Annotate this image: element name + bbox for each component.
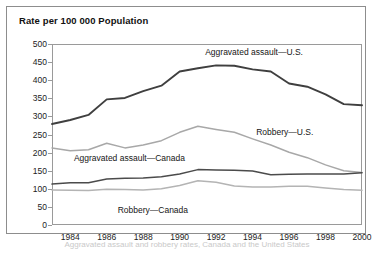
series-line xyxy=(52,181,362,191)
series-label: Robbery—U.S. xyxy=(256,127,313,137)
y-axis-tick-label: 0 xyxy=(42,220,47,230)
plot-area: 5004504003503002502001501005001984198619… xyxy=(52,44,362,225)
y-axis-tick-mark xyxy=(48,135,52,136)
y-axis-tick-label: 350 xyxy=(33,93,47,103)
y-axis-tick-label: 150 xyxy=(33,166,47,176)
y-axis-tick-label: 450 xyxy=(33,57,47,67)
y-axis-tick-label: 400 xyxy=(33,75,47,85)
y-axis-tick-mark xyxy=(48,44,52,45)
chart-title: Rate per 100 000 Population xyxy=(19,15,148,26)
y-axis-tick-label: 250 xyxy=(33,130,47,140)
series-label: Robbery—Canada xyxy=(118,205,188,215)
series-lines xyxy=(52,44,362,225)
series-line xyxy=(52,126,362,172)
y-axis-tick-mark xyxy=(48,98,52,99)
y-axis-tick-label: 100 xyxy=(33,184,47,194)
y-axis-tick-label: 500 xyxy=(33,39,47,49)
y-axis-tick-mark xyxy=(48,116,52,117)
y-axis-tick-mark xyxy=(48,171,52,172)
y-axis-tick-mark xyxy=(48,189,52,190)
y-axis-tick-mark xyxy=(48,62,52,63)
series-label: Aggravated assault—Canada xyxy=(74,153,185,163)
y-axis-tick-label: 50 xyxy=(38,202,47,212)
y-axis-tick-mark xyxy=(48,153,52,154)
series-line xyxy=(52,65,362,124)
figure-caption: Aggravated assault and robbery rates, Ca… xyxy=(0,240,374,252)
series-label: Aggravated assault—U.S. xyxy=(205,47,303,57)
y-axis-tick-mark xyxy=(48,225,52,226)
y-axis-tick-mark xyxy=(48,207,52,208)
chart-panel: Rate per 100 000 Population 500450400350… xyxy=(6,6,366,234)
y-axis-tick-label: 200 xyxy=(33,148,47,158)
y-axis-tick-mark xyxy=(48,80,52,81)
figure-container: Rate per 100 000 Population 500450400350… xyxy=(0,0,374,255)
y-axis-tick-label: 300 xyxy=(33,111,47,121)
